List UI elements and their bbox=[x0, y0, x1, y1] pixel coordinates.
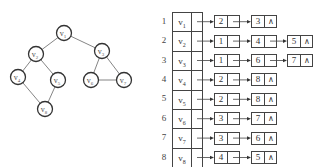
adjvex-index: 5 bbox=[252, 152, 265, 163]
adjvex-index: 2 bbox=[215, 16, 228, 27]
next-pointer bbox=[228, 133, 240, 144]
next-pointer bbox=[265, 55, 277, 66]
adjvex-index: 2 bbox=[215, 74, 228, 85]
vertex-label: v7 bbox=[173, 129, 192, 147]
adjvex-index: 6 bbox=[252, 55, 265, 66]
adjvex-index: 4 bbox=[215, 152, 228, 163]
edge-node: 6 bbox=[251, 54, 277, 67]
vertex-label: v3 bbox=[173, 52, 192, 70]
adjvex-index: 3 bbox=[215, 133, 228, 144]
edge-node: 6∧ bbox=[251, 132, 277, 145]
edge-node: 1 bbox=[214, 54, 240, 67]
vertex-label: v2 bbox=[173, 32, 192, 50]
vertex-head-v8: v8 bbox=[172, 148, 203, 167]
next-pointer bbox=[228, 74, 240, 85]
next-pointer bbox=[228, 94, 240, 105]
vertex-label: v4 bbox=[173, 71, 192, 89]
vertex-label: v1 bbox=[173, 13, 192, 31]
edge-node: 7∧ bbox=[251, 112, 277, 125]
edge-node: 8∧ bbox=[251, 73, 277, 86]
vertex-label: v8 bbox=[173, 149, 192, 167]
edge-node: 8∧ bbox=[251, 93, 277, 106]
adjvex-index: 3 bbox=[252, 16, 265, 27]
row-index: 6 bbox=[160, 113, 168, 123]
edge-node: 5∧ bbox=[251, 151, 277, 164]
adjvex-index: 8 bbox=[252, 74, 265, 85]
edge-node: 5∧ bbox=[287, 35, 313, 48]
adjvex-index: 6 bbox=[252, 133, 265, 144]
null-pointer-icon: ∧ bbox=[265, 152, 277, 163]
adjvex-index: 1 bbox=[215, 36, 228, 47]
adjvex-index: 8 bbox=[252, 94, 265, 105]
adjvex-index: 2 bbox=[215, 94, 228, 105]
edge-node: 3 bbox=[214, 112, 240, 125]
row-index: 4 bbox=[160, 74, 168, 84]
edge-node: 3 bbox=[214, 132, 240, 145]
row-index: 7 bbox=[160, 132, 168, 142]
null-pointer-icon: ∧ bbox=[301, 36, 313, 47]
vertex-label: v5 bbox=[173, 91, 192, 109]
next-pointer bbox=[228, 113, 240, 124]
row-index: 5 bbox=[160, 93, 168, 103]
vertex-head-v7: v7 bbox=[172, 128, 203, 148]
null-pointer-icon: ∧ bbox=[265, 94, 277, 105]
next-pointer bbox=[228, 16, 240, 27]
row-index: 1 bbox=[160, 16, 168, 26]
edge-node: 2 bbox=[214, 15, 240, 28]
adjvex-index: 4 bbox=[252, 36, 265, 47]
edge-node: 4 bbox=[214, 151, 240, 164]
adjvex-index: 3 bbox=[215, 113, 228, 124]
row-index: 8 bbox=[160, 152, 168, 162]
next-pointer bbox=[265, 36, 277, 47]
vertex-head-v3: v3 bbox=[172, 51, 203, 71]
edge-node: 2 bbox=[214, 73, 240, 86]
vertex-head-v2: v2 bbox=[172, 31, 203, 51]
edge-node: 3∧ bbox=[251, 15, 277, 28]
null-pointer-icon: ∧ bbox=[265, 74, 277, 85]
adjvex-index: 7 bbox=[252, 113, 265, 124]
row-index: 2 bbox=[160, 35, 168, 45]
edge-node: 2 bbox=[214, 93, 240, 106]
null-pointer-icon: ∧ bbox=[265, 133, 277, 144]
vertex-head-v6: v6 bbox=[172, 109, 203, 129]
null-pointer-icon: ∧ bbox=[301, 55, 313, 66]
vertex-head-v4: v4 bbox=[172, 70, 203, 90]
adjvex-index: 5 bbox=[288, 36, 301, 47]
row-index: 3 bbox=[160, 55, 168, 65]
adjvex-index: 1 bbox=[215, 55, 228, 66]
next-pointer bbox=[228, 152, 240, 163]
adjacency-list: 1v123∧2v2145∧3v3167∧4v428∧5v528∧6v637∧7v… bbox=[0, 0, 323, 167]
vertex-head-v1: v1 bbox=[172, 12, 203, 32]
null-pointer-icon: ∧ bbox=[265, 113, 277, 124]
vertex-label: v6 bbox=[173, 110, 192, 128]
vertex-head-v5: v5 bbox=[172, 90, 203, 110]
edge-node: 4 bbox=[251, 35, 277, 48]
next-pointer bbox=[228, 55, 240, 66]
next-pointer bbox=[228, 36, 240, 47]
edge-node: 7∧ bbox=[287, 54, 313, 67]
null-pointer-icon: ∧ bbox=[265, 16, 277, 27]
edge-node: 1 bbox=[214, 35, 240, 48]
adjvex-index: 7 bbox=[288, 55, 301, 66]
